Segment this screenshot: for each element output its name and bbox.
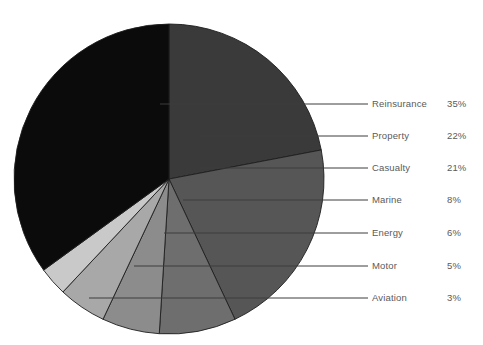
legend-value-aviation: 3% — [447, 291, 461, 305]
legend-value-reinsurance: 35% — [447, 97, 466, 111]
legend-label-aviation: Aviation — [372, 291, 407, 305]
pie-chart-svg — [0, 0, 483, 345]
legend-label-property: Property — [372, 129, 409, 143]
legend-label-casualty: Casualty — [372, 161, 410, 175]
legend-label-reinsurance: Reinsurance — [372, 97, 427, 111]
legend-value-property: 22% — [447, 129, 466, 143]
legend-value-marine: 8% — [447, 193, 461, 207]
pie-slice-group — [14, 24, 324, 334]
legend-label-marine: Marine — [372, 193, 402, 207]
legend-label-motor: Motor — [372, 259, 397, 273]
legend-value-casualty: 21% — [447, 161, 466, 175]
legend-label-energy: Energy — [372, 226, 403, 240]
pie-chart-figure: Reinsurance 35% Property 22% Casualty 21… — [0, 0, 483, 345]
legend-value-motor: 5% — [447, 259, 461, 273]
legend-value-energy: 6% — [447, 226, 461, 240]
